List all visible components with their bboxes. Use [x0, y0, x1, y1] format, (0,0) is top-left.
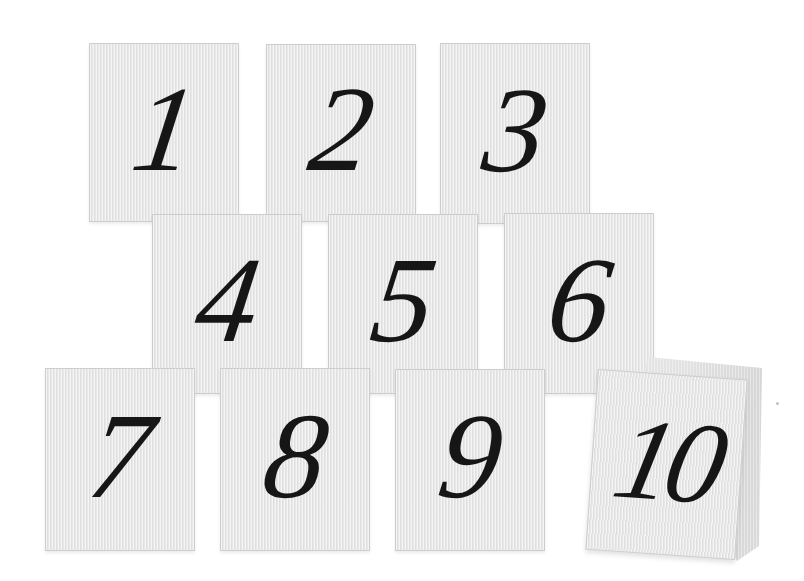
table-number-card-3: 3: [440, 43, 590, 224]
card-number-label: 3: [476, 69, 554, 191]
card-number-label: 9: [431, 395, 509, 517]
table-number-card-8: 8: [220, 368, 370, 551]
tent-card-front-face: 10: [585, 369, 747, 560]
card-number-label: 2: [302, 68, 380, 190]
table-number-tent-card-10: 10: [585, 350, 780, 570]
table-number-cards-scene: 12345678910: [0, 0, 804, 581]
card-number-label: 8: [256, 395, 334, 517]
card-number-label: 7: [81, 395, 159, 517]
table-number-card-2: 2: [266, 44, 416, 222]
table-number-card-5: 5: [328, 214, 478, 394]
dust-speck: [776, 402, 779, 405]
card-number-label: 1: [125, 68, 203, 190]
card-number-label: 10: [605, 400, 729, 522]
card-number-label: 6: [540, 239, 618, 361]
table-number-card-1: 1: [89, 43, 239, 222]
table-number-card-7: 7: [45, 368, 195, 551]
table-number-card-4: 4: [152, 214, 302, 394]
table-number-card-9: 9: [395, 369, 545, 551]
card-number-label: 4: [188, 239, 266, 361]
card-number-label: 5: [364, 239, 442, 361]
